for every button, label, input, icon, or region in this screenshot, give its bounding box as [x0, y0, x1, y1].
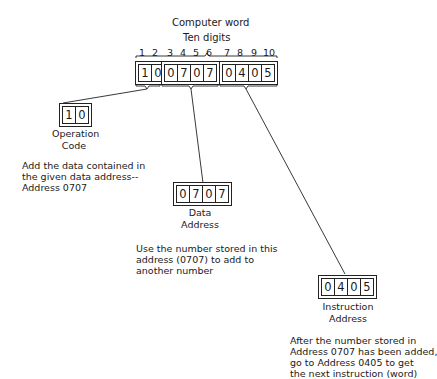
operation-leader — [63, 89, 147, 103]
operation-description: Add the data contained in the given data… — [22, 160, 145, 193]
label-line: Operation — [52, 128, 96, 140]
word-digit: 7 — [177, 64, 191, 82]
instruction-digit: 0 — [321, 278, 335, 296]
data-address-description: Use the number stored in this address (0… — [136, 243, 278, 276]
digit-position: 8 — [233, 47, 247, 58]
label-line: Instruction — [318, 301, 378, 313]
word-digit: 7 — [203, 64, 217, 82]
digit-position: 2 — [148, 47, 162, 58]
data-digit: 7 — [215, 185, 229, 203]
digit-position: 6 — [202, 47, 216, 58]
word-data-group: 0 7 0 7 — [161, 61, 220, 85]
data-address-label: Data Address — [180, 207, 220, 231]
digit-position: 5 — [189, 47, 203, 58]
operation-digit: 0 — [75, 106, 89, 124]
word-digit: 4 — [235, 64, 249, 82]
data-leader — [191, 89, 203, 183]
digit-position: 7 — [220, 47, 234, 58]
word-digit: 0 — [190, 64, 204, 82]
word-digit: 0 — [248, 64, 262, 82]
data-address-box: 0 7 0 7 — [173, 182, 232, 206]
instruction-digit: 0 — [347, 278, 361, 296]
label-line: Data — [180, 207, 220, 219]
digit-position: 3 — [163, 47, 177, 58]
digit-position: 4 — [176, 47, 190, 58]
word-digit: 1 — [138, 64, 152, 82]
digit-position-numbers: 1 2 3 4 5 6 7 8 9 10 — [135, 47, 279, 59]
word-instruction-group: 0 4 0 5 — [219, 61, 278, 85]
label-line: Code — [52, 140, 96, 152]
instruction-address-label: Instruction Address — [318, 301, 378, 325]
label-line: Address — [318, 313, 378, 325]
instruction-digit: 4 — [334, 278, 348, 296]
digit-position: 10 — [262, 47, 276, 58]
data-digit: 0 — [176, 185, 190, 203]
operation-code-box: 1 0 — [59, 103, 92, 127]
data-digit: 0 — [202, 185, 216, 203]
instruction-digit: 5 — [360, 278, 374, 296]
digit-position: 1 — [135, 47, 149, 58]
diagram-subtitle: Ten digits — [183, 32, 230, 43]
word-digit: 0 — [164, 64, 178, 82]
word-digit: 0 — [222, 64, 236, 82]
operation-code-label: Operation Code — [52, 128, 96, 152]
data-digit: 7 — [189, 185, 203, 203]
operation-digit: 1 — [62, 106, 76, 124]
word-digit: 5 — [261, 64, 275, 82]
instruction-address-box: 0 4 0 5 — [318, 275, 377, 299]
label-line: Address — [180, 219, 220, 231]
digit-position: 9 — [247, 47, 261, 58]
diagram-title: Computer word — [172, 17, 249, 28]
instruction-address-description: After the number stored in Address 0707 … — [290, 335, 437, 379]
